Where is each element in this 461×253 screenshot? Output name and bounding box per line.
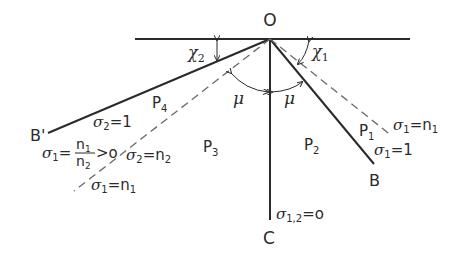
diagram-canvas: O B B' C χ2 χ1 μ μ P1 P2 P3 P4 σ1=n1 σ1=… (0, 0, 461, 253)
label-C: C (263, 228, 275, 248)
label-sigma-right-solid: σ1=1 (374, 141, 413, 160)
label-sigma-left-solid: σ2=1 (93, 113, 132, 132)
label-chi2: χ2 (187, 43, 205, 65)
svg-text:n1: n1 (76, 136, 91, 154)
chi1-arc (298, 41, 309, 64)
svg-text:σ1=: σ1= (42, 144, 71, 163)
svg-text:n2: n2 (76, 153, 91, 171)
label-sigma-left-fraction: σ1= n1 n2 >o (42, 136, 118, 171)
label-B: B (369, 171, 380, 190)
dashed-line-left (74, 39, 270, 191)
label-Bprime: B' (30, 126, 45, 145)
label-chi1: χ1 (311, 42, 329, 64)
label-sigma-right-dashed: σ1=n1 (393, 116, 438, 135)
label-P3: P3 (203, 138, 218, 158)
label-P1: P1 (359, 122, 374, 142)
label-mu-left: μ (233, 88, 244, 108)
label-P2: P2 (304, 136, 319, 156)
label-P4: P4 (152, 94, 167, 114)
label-sigma-left-dashed: σ1=n1 (91, 176, 136, 195)
label-sigma-left-mid: σ2=n2 (126, 146, 171, 165)
label-O: O (263, 10, 276, 30)
label-sigma-bottom: σ1,2=o (276, 205, 324, 224)
label-mu-right: μ (284, 88, 295, 108)
svg-text:>o: >o (96, 144, 118, 162)
line-OBprime (48, 39, 270, 133)
